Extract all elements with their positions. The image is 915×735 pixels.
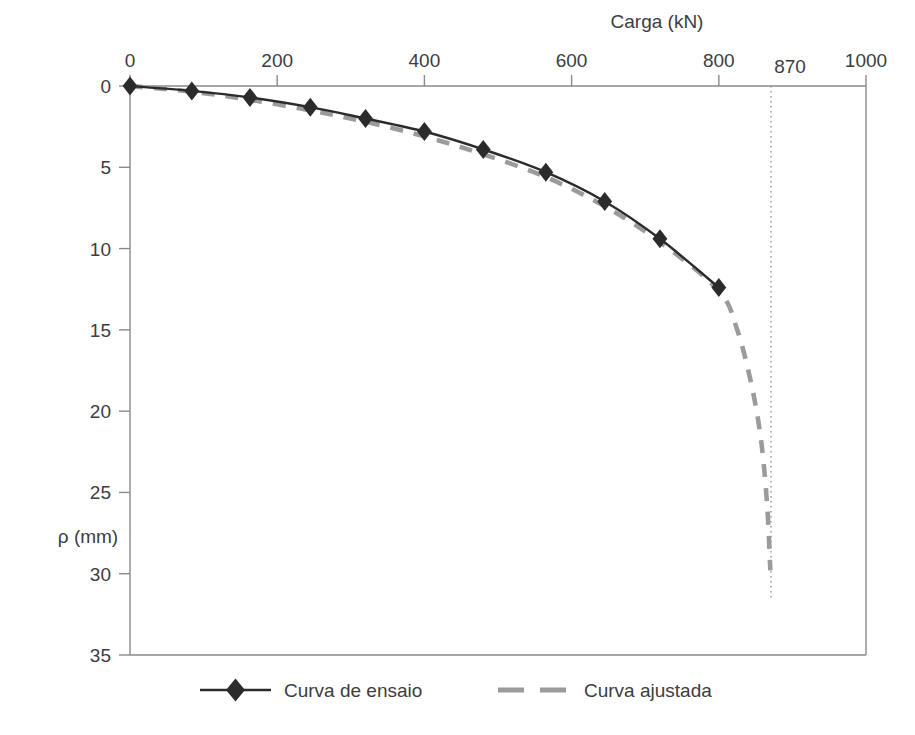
data-point-marker	[303, 98, 318, 117]
x-axis-tick-labels: 02004006008001000	[125, 50, 887, 71]
y-axis-tick-labels: 05101520253035	[90, 76, 111, 666]
data-point-marker	[123, 77, 138, 96]
y-tick-label: 35	[90, 645, 111, 666]
y-tick-label: 0	[100, 76, 111, 97]
chart-legend: Curva de ensaio Curva ajustada	[200, 679, 712, 702]
y-axis-title: ρ (mm)	[58, 526, 118, 547]
data-point-marker	[417, 122, 432, 141]
series-curva-ajustada	[130, 86, 770, 570]
load-settlement-chart: 02004006008001000 05101520253035 Carga (…	[0, 0, 915, 735]
asymptote-annotation: 870	[771, 56, 806, 599]
y-tick-label: 20	[90, 401, 111, 422]
plot-frame	[130, 86, 866, 655]
y-tick-label: 5	[100, 157, 111, 178]
y-tick-label: 30	[90, 564, 111, 585]
legend-item-curva-de-ensaio: Curva de ensaio	[200, 679, 422, 702]
x-axis-ticks	[130, 75, 866, 86]
legend-item-curva-ajustada: Curva ajustada	[498, 680, 712, 701]
legend-label-curva-de-ensaio: Curva de ensaio	[284, 680, 422, 701]
data-point-marker	[243, 88, 258, 107]
series-curva-de-ensaio	[130, 86, 719, 288]
data-point-marker	[711, 278, 726, 297]
x-tick-label: 1000	[845, 50, 887, 71]
legend-diamond-icon	[226, 679, 245, 702]
x-tick-label: 600	[556, 50, 588, 71]
y-tick-label: 25	[90, 482, 111, 503]
data-point-marker	[184, 81, 199, 100]
series-curva-de-ensaio-markers	[123, 77, 727, 298]
y-tick-label: 15	[90, 320, 111, 341]
asymptote-label: 870	[774, 56, 806, 77]
chart-canvas: 02004006008001000 05101520253035 Carga (…	[0, 0, 915, 735]
data-point-marker	[597, 192, 612, 211]
x-axis-title: Carga (kN)	[611, 11, 704, 32]
data-point-marker	[653, 229, 668, 248]
x-tick-label: 0	[125, 50, 136, 71]
x-tick-label: 200	[261, 50, 293, 71]
y-tick-label: 10	[90, 239, 111, 260]
x-tick-label: 800	[703, 50, 735, 71]
y-axis-ticks	[119, 86, 130, 655]
legend-label-curva-ajustada: Curva ajustada	[584, 680, 712, 701]
x-tick-label: 400	[409, 50, 441, 71]
